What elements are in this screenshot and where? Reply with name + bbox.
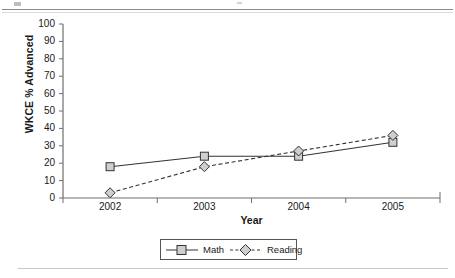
data-point-math-2003: [200, 152, 208, 160]
series-line-reading: [110, 135, 393, 192]
legend-item-math: Math: [165, 240, 224, 259]
series-line-math: [110, 142, 393, 166]
data-point-reading-2003: [199, 162, 209, 172]
legend-swatch-solid-square-icon: [165, 243, 199, 257]
legend-label-math: Math: [203, 244, 224, 255]
legend-item-reading: Reading: [229, 240, 302, 259]
series-math: [106, 138, 397, 170]
series-reading: [105, 130, 398, 197]
data-point-reading-2002: [105, 188, 115, 198]
chart-legend: Math Reading: [160, 239, 297, 260]
legend-swatch-dashed-diamond-icon: [229, 243, 263, 257]
plot-area: [0, 0, 455, 278]
data-point-math-2002: [106, 163, 114, 171]
legend-label-reading: Reading: [267, 244, 302, 255]
line-chart: WKCE % Advanced Year 0102030405060708090…: [0, 0, 455, 278]
